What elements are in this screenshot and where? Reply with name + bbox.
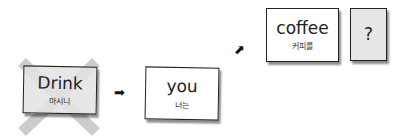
arrow-right-icon: ➡ (114, 86, 125, 99)
card-korean: 너는 (175, 99, 189, 110)
card-word: ? (364, 25, 373, 44)
card-word: you (166, 77, 198, 96)
word-card-drink: Drink 마시니 (23, 65, 98, 114)
word-card-question: ? (350, 8, 387, 61)
card-word: coffee (276, 19, 328, 38)
card-korean: 커피를 (292, 40, 313, 51)
card-korean: 마시니 (49, 95, 70, 106)
card-word: Drink (37, 73, 83, 92)
arrow-up-right-icon: ⬈ (234, 43, 245, 56)
word-card-you: you 너는 (145, 66, 220, 120)
word-card-coffee: coffee 커피를 (266, 8, 339, 62)
